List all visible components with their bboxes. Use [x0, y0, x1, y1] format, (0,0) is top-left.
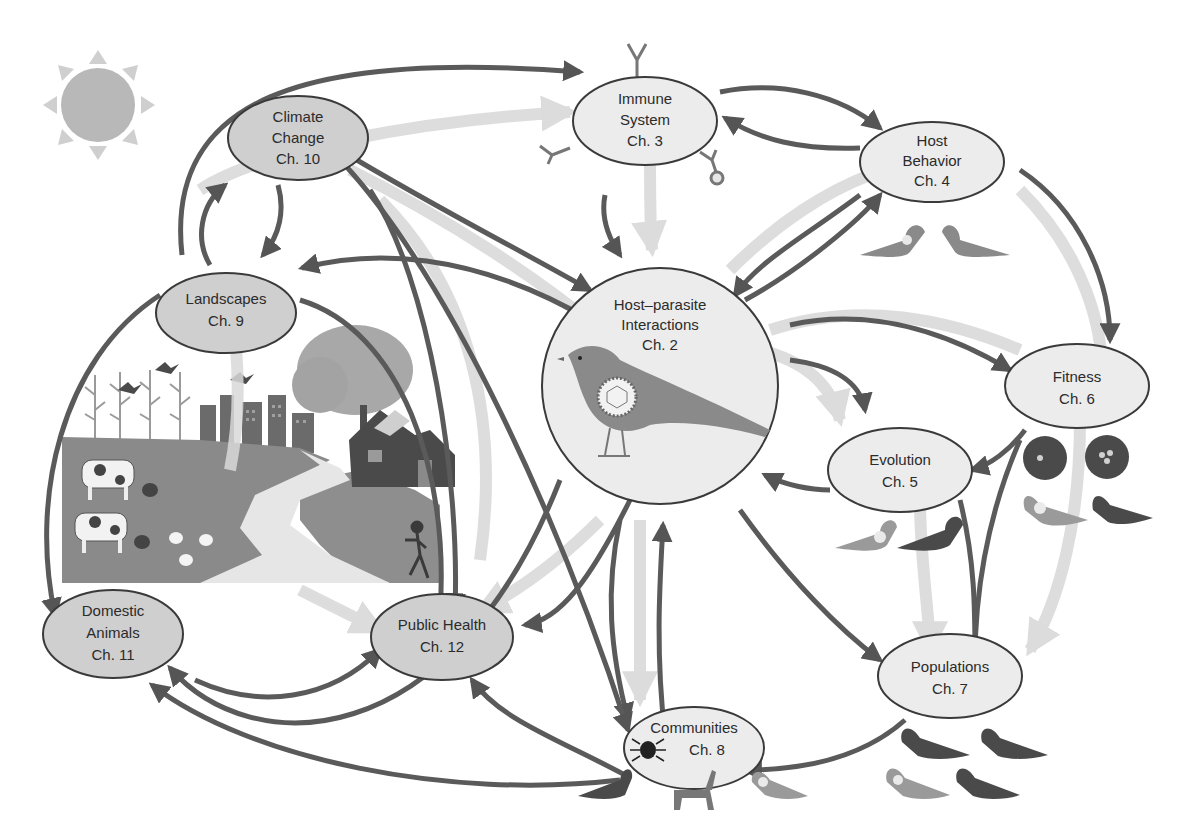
node-populations-chapter: Ch. 7: [932, 680, 968, 697]
bird-icon: [835, 517, 963, 551]
node-host-behavior-title: Host: [917, 132, 949, 149]
node-climate-change[interactable]: Climate Change Ch. 10: [228, 96, 368, 180]
sun-icon: [43, 50, 155, 160]
cornfield-icon: [85, 370, 190, 440]
node-domestic-chapter: Ch. 11: [91, 646, 134, 663]
node-communities-title: Communities: [650, 719, 738, 736]
node-communities[interactable]: Communities Ch. 8: [578, 707, 808, 810]
node-domestic-title: Domestic: [82, 602, 145, 619]
node-immune-chapter: Ch. 3: [627, 132, 663, 149]
node-landscapes[interactable]: Landscapes Ch. 9: [156, 273, 296, 353]
node-evolution[interactable]: Evolution Ch. 5: [828, 428, 972, 551]
node-immune-subtitle: System: [620, 111, 670, 128]
node-communities-chapter: Ch. 8: [689, 741, 725, 758]
node-host-parasite-chapter: Ch. 2: [642, 336, 678, 353]
node-host-behavior-chapter: Ch. 4: [914, 172, 950, 189]
node-host-parasite-title: Host–parasite: [614, 296, 707, 313]
node-immune-title: Immune: [618, 90, 672, 107]
node-landscapes-title: Landscapes: [186, 290, 267, 307]
node-host-behavior[interactable]: Host Behavior Ch. 4: [860, 122, 1010, 257]
node-domestic-animals[interactable]: Domestic Animals Ch. 11: [43, 590, 183, 678]
node-host-parasite-interactions[interactable]: Host–parasite Interactions Ch. 2: [542, 268, 778, 504]
bird-icon: [886, 728, 1048, 798]
node-host-behavior-subtitle: Behavior: [902, 152, 961, 169]
node-climate-chapter: Ch. 10: [276, 150, 320, 167]
node-domestic-subtitle: Animals: [86, 624, 139, 641]
node-fitness-title: Fitness: [1053, 368, 1101, 385]
node-populations-title: Populations: [911, 658, 989, 675]
concept-map-diagram: Host–parasite Interactions Ch. 2 Immune …: [0, 0, 1186, 834]
node-climate-title: Climate: [273, 108, 324, 125]
node-public-health-title: Public Health: [398, 616, 486, 633]
node-public-health-chapter: Ch. 12: [420, 638, 464, 655]
node-evolution-title: Evolution: [869, 451, 931, 468]
node-populations[interactable]: Populations Ch. 7: [878, 634, 1048, 799]
node-public-health[interactable]: Public Health Ch. 12: [371, 594, 513, 680]
landscape-illustration: [62, 325, 455, 583]
node-fitness-chapter: Ch. 6: [1059, 390, 1095, 407]
node-climate-subtitle: Change: [272, 129, 325, 146]
bird-icon: [1024, 496, 1153, 526]
bird-icon: [860, 225, 1010, 257]
node-evolution-chapter: Ch. 5: [882, 473, 918, 490]
node-host-parasite-subtitle: Interactions: [621, 316, 699, 333]
node-landscapes-chapter: Ch. 9: [208, 312, 244, 329]
